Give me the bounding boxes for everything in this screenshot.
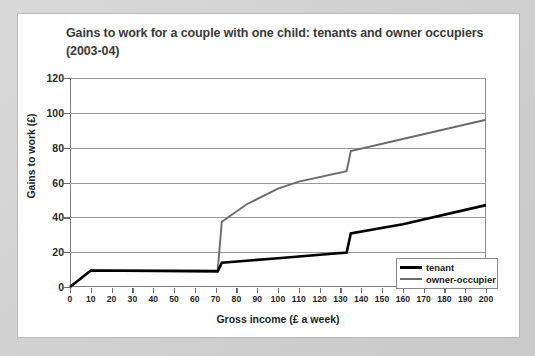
y-tick-label-20: 20 [52,246,64,258]
x-tick-label-40: 40 [148,294,158,304]
x-tick-label-130: 130 [333,294,347,304]
x-tick-120 [320,288,321,293]
x-tick-60 [195,288,196,293]
x-tick-label-20: 20 [107,294,117,304]
x-tick-100 [278,288,279,293]
y-tick-label-40: 40 [52,211,64,223]
x-tick-label-0: 0 [68,294,73,304]
x-tick-label-150: 150 [375,294,389,304]
x-tick-label-80: 80 [232,294,242,304]
y-tick-label-120: 120 [46,72,64,84]
x-tick-label-110: 110 [292,294,306,304]
x-tick-label-70: 70 [211,294,221,304]
x-tick-label-200: 200 [479,294,493,304]
legend-label-owner-occupier: owner-occupier [426,274,496,285]
y-axis-title: Gains to work (£) [25,91,37,221]
x-tick-label-60: 60 [190,294,200,304]
series-lines [70,78,486,287]
legend-swatch-tenant-icon [400,266,422,269]
chart-title: Gains to work for a couple with one chil… [66,24,486,60]
x-tick-label-160: 160 [396,294,410,304]
x-tick-130 [340,288,341,293]
x-tick-label-180: 180 [437,294,451,304]
x-tick-label-90: 90 [252,294,262,304]
x-tick-140 [361,288,362,293]
legend-item-tenant: tenant [400,261,493,273]
x-tick-label-170: 170 [416,294,430,304]
x-tick-80 [236,288,237,293]
chart-screenshot: Gains to work for a couple with one chil… [0,0,535,356]
x-tick-label-190: 190 [458,294,472,304]
chart-legend: tenant owner-occupier [396,258,498,289]
x-tick-label-140: 140 [354,294,368,304]
legend-label-tenant: tenant [426,262,454,273]
x-tick-40 [153,288,154,293]
x-tick-70 [216,288,217,293]
legend-item-owner-occupier: owner-occupier [400,273,493,285]
x-tick-10 [91,288,92,293]
y-tick-label-60: 60 [52,177,64,189]
x-axis-title: Gross income (£ a week) [70,313,486,325]
x-tick-0 [70,288,71,293]
plot-area [70,78,486,287]
y-tick-label-80: 80 [52,142,64,154]
chart-title-line-1: Gains to work for a couple with one chil… [66,26,422,40]
x-tick-label-10: 10 [86,294,96,304]
x-tick-90 [257,288,258,293]
x-tick-label-50: 50 [169,294,179,304]
x-tick-150 [382,288,383,293]
y-tick-label-100: 100 [46,107,64,119]
x-axis: 0102030405060708090100110120130140150160… [70,288,486,310]
x-tick-20 [112,288,113,293]
x-tick-110 [299,288,300,293]
x-tick-label-100: 100 [271,294,285,304]
x-tick-label-120: 120 [312,294,326,304]
x-tick-label-30: 30 [128,294,138,304]
x-tick-30 [132,288,133,293]
x-tick-50 [174,288,175,293]
legend-swatch-owner-occupier-icon [400,278,422,280]
